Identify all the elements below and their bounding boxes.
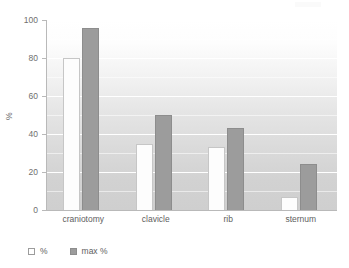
legend: %max % — [28, 247, 108, 256]
bar-craniotomy-pct — [63, 58, 80, 210]
y-tick-label: 60 — [8, 92, 38, 101]
legend-label: % — [40, 247, 48, 256]
legend-item-max: max % — [70, 247, 108, 256]
bar-clavicle-pct — [136, 144, 153, 211]
y-axis-label: % — [2, 112, 16, 126]
plot-area — [47, 20, 337, 210]
y-tick-mark — [42, 134, 46, 135]
y-tick-mark — [42, 96, 46, 97]
x-tick-label-sternum: sternum — [285, 215, 316, 224]
x-axis-line — [46, 210, 337, 211]
y-tick-mark — [42, 20, 46, 21]
y-axis-line — [46, 20, 47, 211]
x-tick-label-clavicle: clavicle — [142, 215, 170, 224]
y-tick-label: 80 — [8, 54, 38, 63]
bar-chart: 020406080100 craniotomyclavicleribsternu… — [0, 0, 349, 268]
bar-rib-max — [227, 128, 244, 210]
legend-label: max % — [82, 247, 108, 256]
bar-craniotomy-max — [82, 28, 99, 210]
bar-rib-pct — [208, 147, 225, 210]
y-tick-label: 20 — [8, 168, 38, 177]
y-tick-mark — [42, 58, 46, 59]
legend-swatch-open-icon — [28, 248, 35, 255]
y-tick-mark — [42, 210, 46, 211]
legend-swatch-filled-icon — [70, 248, 77, 255]
x-tick-label-craniotomy: craniotomy — [62, 215, 104, 224]
y-tick-label: 40 — [8, 130, 38, 139]
bar-clavicle-max — [155, 115, 172, 210]
y-axis-label-text: % — [5, 109, 14, 123]
x-tick-label-rib: rib — [224, 215, 233, 224]
legend-item-pct: % — [28, 247, 48, 256]
y-tick-mark — [42, 172, 46, 173]
corner-artifact — [295, 2, 321, 7]
y-tick-label: 0 — [8, 206, 38, 215]
y-tick-label: 100 — [8, 16, 38, 25]
gridline — [47, 20, 337, 21]
bar-sternum-max — [300, 164, 317, 210]
bar-sternum-pct — [281, 197, 298, 210]
